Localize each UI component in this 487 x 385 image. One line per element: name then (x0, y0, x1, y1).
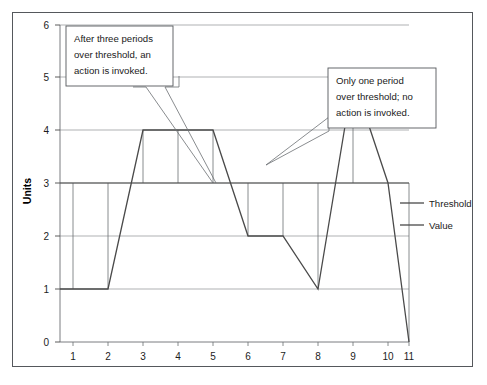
x-tick-label-5: 5 (210, 351, 216, 362)
y-tick-label-3: 3 (43, 178, 49, 189)
chart-plot: 6 5 4 3 2 1 0 Units (13, 13, 472, 366)
callout-three-periods-pointer-left (146, 87, 213, 183)
callout-one-period: Only one period over threshold; no actio… (328, 68, 436, 128)
y-tick-label-2: 2 (43, 231, 49, 242)
y-tick-label-0: 0 (43, 337, 49, 348)
x-tick-label-6: 6 (245, 351, 251, 362)
callout-three-periods-pointer-right (165, 87, 216, 183)
callout-one-period-pointer-lower (266, 131, 329, 165)
callout-one-period-leaders (266, 117, 329, 165)
callout-three-periods: After three periods over threshold, an a… (66, 26, 173, 86)
legend-item-value[interactable]: Value (400, 220, 453, 231)
callout-three-periods-line2: over threshold, an (74, 49, 151, 60)
x-tick-label-2: 2 (105, 351, 111, 362)
x-tick-label-11: 11 (404, 351, 415, 362)
y-axis-tick-labels: 6 5 4 3 2 1 0 (43, 20, 49, 348)
x-tick-label-4: 4 (175, 351, 181, 362)
y-tick-label-5: 5 (43, 72, 49, 83)
x-axis-ticks (73, 342, 409, 346)
callout-three-periods-line3: action is invoked. (74, 65, 148, 76)
legend-label-value: Value (429, 220, 453, 231)
y-tick-label-4: 4 (43, 125, 49, 136)
callout-one-period-pointer-upper (266, 117, 329, 165)
legend-item-threshold[interactable]: Threshold (400, 198, 472, 209)
legend-label-threshold: Threshold (429, 198, 472, 209)
x-tick-label-7: 7 (280, 351, 286, 362)
callout-three-periods-line1: After three periods (74, 33, 153, 44)
y-tick-label-6: 6 (43, 20, 49, 31)
x-tick-label-3: 3 (140, 351, 146, 362)
x-tick-label-8: 8 (315, 351, 321, 362)
y-axis-ticks (55, 25, 60, 342)
figure-frame: 6 5 4 3 2 1 0 Units (12, 12, 473, 367)
y-tick-label-1: 1 (43, 284, 49, 295)
callout-one-period-line2: over threshold; no (336, 91, 413, 102)
x-tick-label-10: 10 (382, 351, 394, 362)
chart-legend: Threshold Value (400, 198, 472, 231)
callout-one-period-line1: Only one period (336, 75, 404, 86)
callout-one-period-line3: action is invoked. (336, 107, 410, 118)
x-tick-label-1: 1 (70, 351, 76, 362)
x-tick-label-9: 9 (350, 351, 356, 362)
y-axis-title: Units (21, 178, 33, 204)
x-axis-tick-labels: 1 2 3 4 5 6 7 8 9 10 11 (70, 351, 414, 362)
